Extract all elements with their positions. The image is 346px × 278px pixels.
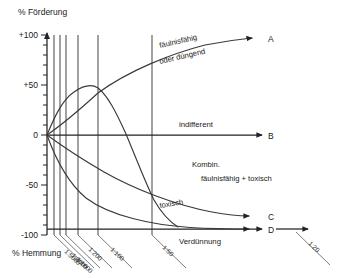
endpoint-label-a: A (268, 34, 274, 44)
curve-hump (47, 86, 178, 227)
endpoint-label-b: B (268, 131, 274, 141)
dilution-label-1-200: 1:200 (87, 246, 104, 262)
endpoint-label-c: C (268, 212, 274, 222)
chart-canvas: % Förderung % Hemmung +100 +50 0 -50 -10… (0, 0, 346, 278)
y-axis-title-bottom: % Hemmung (12, 248, 61, 258)
chart-container: % Förderung % Hemmung +100 +50 0 -50 -10… (0, 0, 346, 278)
y-axis-title-top: % Förderung (18, 7, 67, 17)
endpoint-label-d: D (268, 225, 274, 235)
curve-label-a-line2: oder düngend (158, 47, 206, 66)
ytick-label-minus50: -50 (26, 180, 39, 190)
x-axis-title-verduennung: Verdünnung (179, 237, 221, 246)
curve-label-c-line2: fäulnisfähig + toxisch (201, 174, 272, 183)
curve-label-d-toxisch: toxisch (159, 197, 184, 210)
ytick-label-100: +100 (19, 30, 38, 40)
curve-label-c-line1: Kombin. (192, 160, 220, 169)
ytick-label-50: +50 (24, 80, 39, 90)
ytick-label-0: 0 (33, 130, 38, 140)
dilution-label-1-20: 1:20 (307, 240, 321, 254)
curve-label-a-line1: fäulnisfähig (158, 33, 197, 50)
ytick-label-minus100: -100 (21, 230, 38, 240)
annotation-indifferent: indifferent (179, 120, 214, 129)
